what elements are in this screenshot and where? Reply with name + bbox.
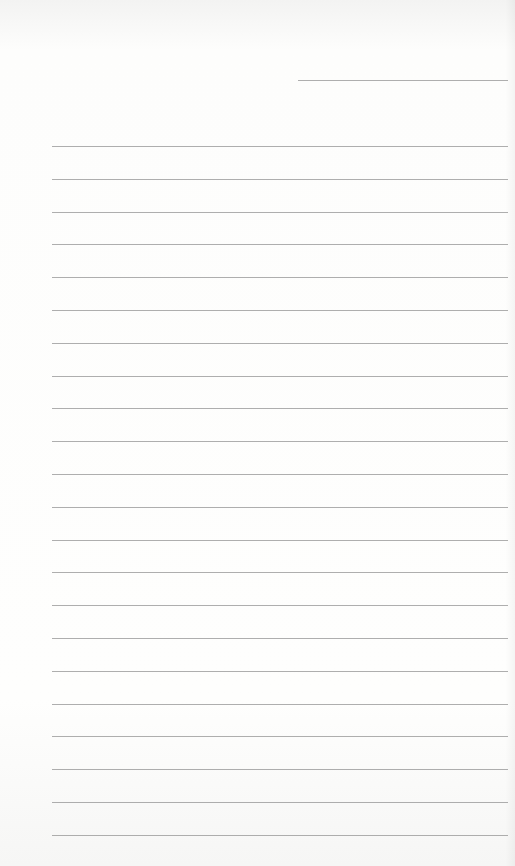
ruled-line (52, 736, 508, 737)
ruled-line (52, 277, 508, 278)
ruled-line (52, 572, 508, 573)
ruled-line (52, 474, 508, 475)
ruled-line (52, 769, 508, 770)
ruled-line (52, 802, 508, 803)
ruled-line (52, 408, 508, 409)
ruled-line (52, 638, 508, 639)
ruled-line (52, 376, 508, 377)
ruled-line (52, 835, 508, 836)
ruled-line (52, 244, 508, 245)
ruled-line (52, 671, 508, 672)
ruled-line (52, 441, 508, 442)
ruled-line (52, 310, 508, 311)
header-line (298, 80, 508, 81)
ruled-line (52, 343, 508, 344)
ruled-line (52, 212, 508, 213)
ruled-line (52, 605, 508, 606)
ruled-line (52, 179, 508, 180)
ruled-line (52, 507, 508, 508)
ruled-line (52, 540, 508, 541)
ruled-line (52, 146, 508, 147)
ruled-line (52, 704, 508, 705)
